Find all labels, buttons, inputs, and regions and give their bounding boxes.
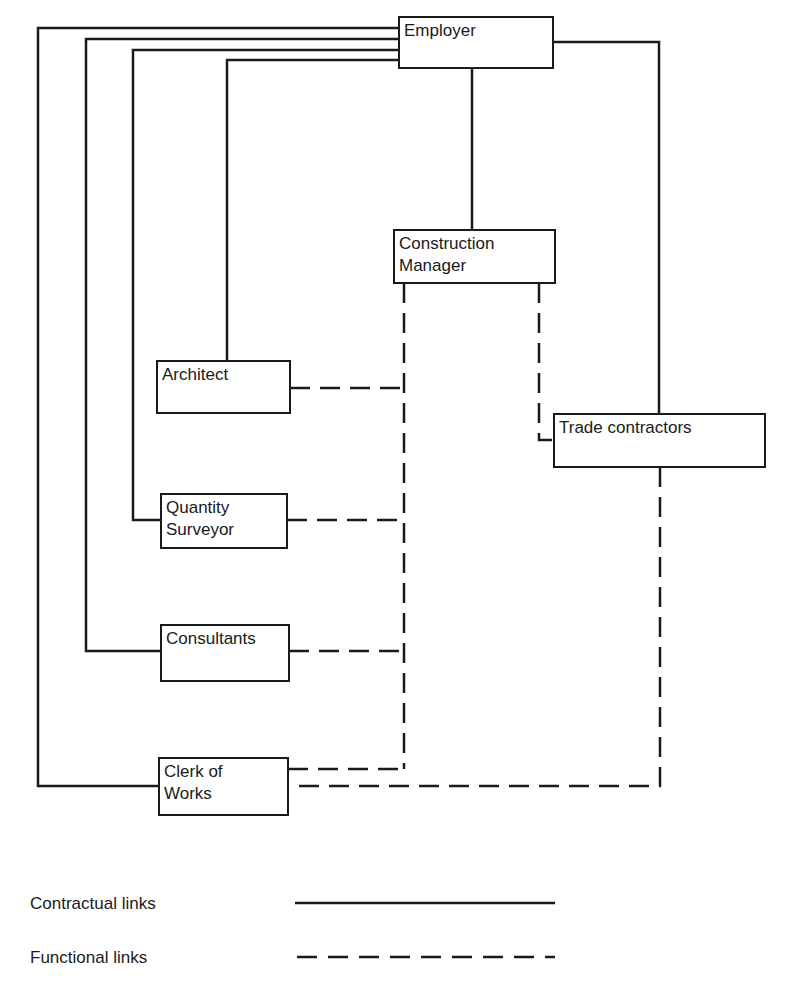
contractual-link-employer-architect [227, 60, 398, 360]
legend-contractual-label: Contractual links [30, 894, 156, 914]
node-clerk-of-works: Clerk of Works [158, 757, 289, 816]
contractual-link-employer-trade [554, 42, 659, 413]
node-architect: Architect [156, 360, 291, 414]
node-quantity-surveyor: Quantity Surveyor [160, 493, 288, 549]
contractual-link-employer-qs [133, 50, 398, 520]
functional-link-cm-trade [539, 283, 553, 440]
node-employer: Employer [398, 16, 554, 69]
node-construction-manager: Construction Manager [393, 229, 556, 284]
link-lines [0, 0, 799, 994]
legend-functional-label: Functional links [30, 948, 147, 968]
node-consultants: Consultants [160, 624, 290, 682]
node-trade-contractors: Trade contractors [553, 413, 766, 468]
functional-link-trade-clerk [288, 467, 660, 786]
